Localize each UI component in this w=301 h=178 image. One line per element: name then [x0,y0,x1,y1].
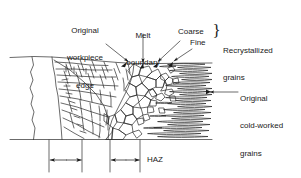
label-original-workpiece-edge: Original workpiece edge [57,7,113,100]
haz-microstructure-figure: Original workpiece edge Melt boundary Co… [0,0,301,178]
label-line: cold-worked [240,121,301,130]
label-line: Original [57,26,113,35]
label-line: Melt [119,31,167,40]
label-line: Original [240,94,301,103]
label-line: workpiece [57,53,113,62]
dimension-extension-lines [49,140,140,172]
label-line: boundary [119,58,167,67]
label-line: grains [240,149,301,158]
label-haz: HAZ [147,155,181,164]
label-original-cold-worked-grains: Original cold-worked grains [240,75,301,168]
leader-fine [174,49,192,61]
label-melt-boundary: Melt boundary [119,12,167,77]
label-line: edge [57,81,113,90]
brace-icon: } [212,24,221,37]
original-workpiece-edge-line [30,57,35,140]
label-line: Recrystallized [223,46,301,55]
